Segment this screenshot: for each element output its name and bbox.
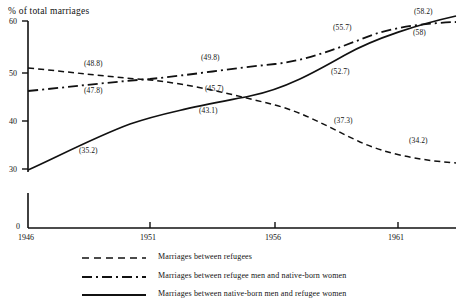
data-label-43-1: (43.1) [199,106,218,115]
data-label-58: (58) [413,28,426,37]
y-axis-ticks [22,21,28,169]
data-label-48-8: (48.8) [84,59,103,68]
legend-item-refugees: Marriages between refugees [158,252,252,261]
data-label-34-2: (34.2) [409,136,428,145]
x-axis-ticks [150,222,398,228]
line-chart-figure: % of total marriages 60 50 40 30 0 1946 … [0,0,464,304]
data-label-58-2: (58.2) [414,7,433,16]
data-label-49-8: (49.8) [201,53,220,62]
data-label-35-2: (35.2) [79,146,98,155]
data-label-52-7: (52.7) [331,67,350,76]
legend-item-native-men-refugee-women: Marriages between native-born men and re… [158,289,346,298]
data-label-45-7: (45.7) [205,84,224,93]
series-line-refugee-men-native-women [28,22,456,91]
data-label-47-8: (47.8) [84,86,103,95]
legend-item-refugee-men-native-women: Marriages between refugee men and native… [158,271,346,280]
data-label-37-3: (37.3) [334,116,353,125]
data-label-55-7: (55.7) [333,23,352,32]
